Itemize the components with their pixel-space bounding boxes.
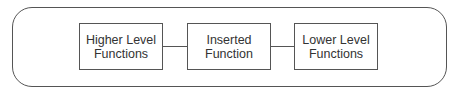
connector-line	[163, 46, 187, 47]
box-label-line1: Lower Level	[302, 33, 369, 47]
lower-level-functions-box: Lower Level Functions	[294, 23, 378, 70]
box-label-line2: Functions	[86, 47, 156, 61]
connector-line	[271, 46, 294, 47]
box-label-line1: Inserted	[205, 33, 253, 47]
box-label-line2: Function	[205, 47, 253, 61]
inserted-function-box: Inserted Function	[187, 23, 271, 70]
box-label-line2: Functions	[302, 47, 369, 61]
box-label-line1: Higher Level	[86, 33, 156, 47]
higher-level-functions-box: Higher Level Functions	[79, 23, 163, 70]
